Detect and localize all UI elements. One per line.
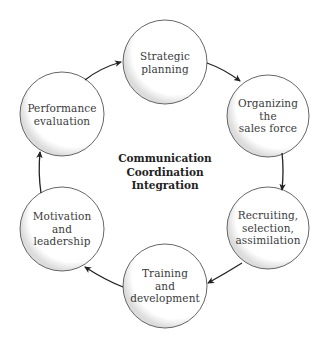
node-label-performance-evaluation: Performance evaluation (20, 102, 104, 127)
center-label: Communication Coordination Integration (118, 152, 212, 193)
arrow-organizing-to-recruiting (282, 153, 283, 190)
node-label-line: planning (123, 62, 207, 75)
center-label-line: Coordination (118, 165, 212, 179)
node-label-organizing-sales-force: Organizing the sales force (226, 97, 310, 135)
node-label-line: evaluation (20, 114, 104, 127)
node-label-training-development: Training and development (123, 267, 207, 305)
node-label-line: Strategic (123, 50, 207, 63)
arrow-strategic-to-organizing (207, 63, 240, 81)
arrow-performance-to-strategic (85, 62, 121, 80)
node-label-line: and (123, 280, 207, 293)
node-label-line: Performance (20, 102, 104, 115)
node-label-line: Organizing (226, 97, 310, 110)
center-label-line: Communication (118, 152, 212, 166)
arrow-motivation-to-performance (39, 152, 41, 193)
node-label-line: the (226, 110, 310, 123)
center-label-line: Integration (118, 179, 212, 193)
node-label-line: Recruiting, (226, 209, 310, 222)
node-label-line: Motivation (20, 210, 104, 223)
node-label-line: selection, (226, 222, 310, 235)
node-label-line: sales force (226, 122, 310, 135)
node-label-strategic-planning: Strategic planning (123, 50, 207, 75)
node-label-motivation-leadership: Motivation and leadership (20, 210, 104, 248)
node-label-line: Training (123, 267, 207, 280)
arrow-training-to-motivation (85, 267, 123, 287)
sales-management-cycle-diagram: Strategic planning Organizing the sales … (0, 0, 325, 345)
node-label-line: assimilation (226, 234, 310, 247)
node-label-line: leadership (20, 235, 104, 248)
arrow-recruiting-to-training (208, 263, 242, 283)
node-label-line: development (123, 292, 207, 305)
node-label-line: and (20, 223, 104, 236)
node-label-recruiting: Recruiting, selection, assimilation (226, 209, 310, 247)
